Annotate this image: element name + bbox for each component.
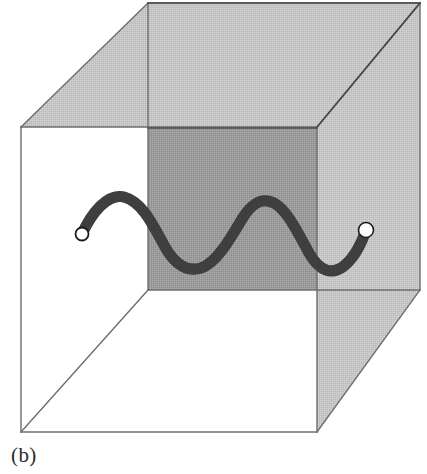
- chain-endpoint-left: [76, 228, 89, 241]
- figure-panel: (b): [0, 0, 427, 474]
- panel-caption: (b): [11, 443, 37, 468]
- chain-endpoint-right: [359, 223, 374, 238]
- cube-and-chain-diagram: [0, 0, 427, 474]
